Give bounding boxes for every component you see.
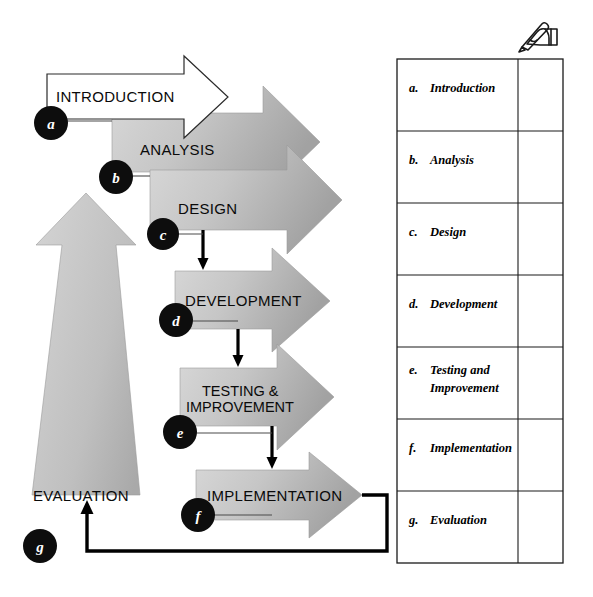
table-row[interactable]: a. Introduction <box>409 81 495 95</box>
stage-arrow-evaluation: EVALUATION <box>32 193 140 504</box>
table-row-label-line1: Testing and <box>430 363 490 377</box>
stage-marker-e-letter: e <box>177 425 184 441</box>
table-row-letter: c. <box>409 225 418 239</box>
stage-marker-c: c <box>147 218 179 250</box>
table-row-label: Implementation <box>429 441 512 455</box>
stage-marker-f: f <box>181 498 215 532</box>
table-row-label-line2: Improvement <box>429 381 499 395</box>
table-row[interactable]: c. Design <box>409 225 466 239</box>
stage-label-evaluation: EVALUATION <box>33 487 129 504</box>
stage-marker-d-letter: d <box>172 313 180 329</box>
stage-label-testing-line1: TESTING & <box>202 383 279 399</box>
table-row-label: Evaluation <box>429 513 487 527</box>
table-row[interactable]: d. Development <box>409 297 498 311</box>
stage-arrow-testing-improvement: TESTING & IMPROVEMENT <box>180 344 334 450</box>
stage-marker-g-letter: g <box>35 539 44 555</box>
stage-label-implementation: IMPLEMENTATION <box>207 487 342 504</box>
table-row-letter: d. <box>409 297 418 311</box>
stage-marker-d: d <box>159 303 193 337</box>
table-row[interactable]: b. Analysis <box>409 153 474 167</box>
table-row-letter: a. <box>409 81 418 95</box>
stage-marker-b: b <box>99 160 133 194</box>
stage-marker-g: g <box>23 529 57 563</box>
stage-marker-e: e <box>163 415 197 449</box>
process-diagram: EVALUATION ANALYSIS DESIGN INTRODUCTION … <box>0 0 593 597</box>
stage-marker-c-letter: c <box>160 227 167 243</box>
table-row-label: Analysis <box>429 153 474 167</box>
table-row-letter: b. <box>409 153 418 167</box>
stage-arrow-implementation: IMPLEMENTATION <box>196 452 362 538</box>
table-row-label: Introduction <box>429 81 495 95</box>
stage-arrow-development: DEVELOPMENT <box>175 248 330 352</box>
stage-label-design: DESIGN <box>178 200 237 217</box>
stage-label-introduction: INTRODUCTION <box>56 88 175 105</box>
hand-writing-pencil-icon <box>519 23 557 52</box>
table-row-label: Development <box>429 297 498 311</box>
table-row-label: Design <box>429 225 466 239</box>
stage-label-analysis: ANALYSIS <box>140 141 215 158</box>
stage-label-testing-line2: IMPROVEMENT <box>186 399 294 415</box>
stage-marker-a-letter: a <box>47 116 55 132</box>
table-row[interactable]: e. Testing and Improvement <box>409 363 499 395</box>
stage-marker-b-letter: b <box>112 170 120 186</box>
table-row-letter: e. <box>409 363 418 377</box>
table-row[interactable]: f. Implementation <box>409 441 512 455</box>
table-row-letter: f. <box>409 441 416 455</box>
stage-marker-a: a <box>34 106 68 140</box>
table-row-letter: g. <box>408 513 418 527</box>
diagram-page: EVALUATION ANALYSIS DESIGN INTRODUCTION … <box>0 0 593 597</box>
notes-table: a. Introduction b. Analysis c. Design d.… <box>397 59 563 563</box>
table-row[interactable]: g. Evaluation <box>408 513 487 527</box>
stage-label-development: DEVELOPMENT <box>185 292 302 309</box>
